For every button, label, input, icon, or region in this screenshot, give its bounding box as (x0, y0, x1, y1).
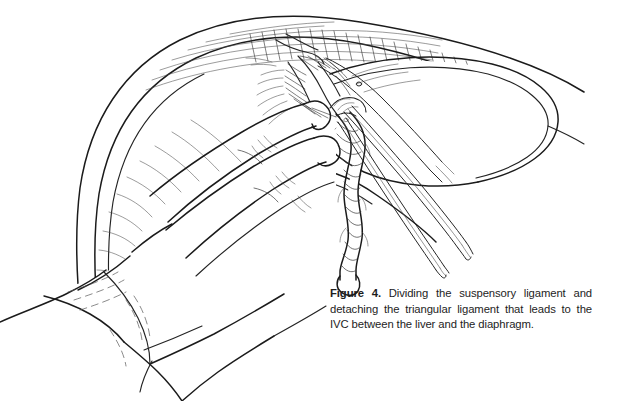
surgical-illustration (0, 0, 619, 401)
surgeons-hand (0, 101, 340, 401)
cut-fibers (246, 58, 291, 124)
figure-number: Figure 4. (330, 287, 381, 299)
figure-caption: Figure 4. Dividing the suspensory ligame… (330, 286, 592, 333)
figure-page: Figure 4. Dividing the suspensory ligame… (0, 0, 619, 401)
